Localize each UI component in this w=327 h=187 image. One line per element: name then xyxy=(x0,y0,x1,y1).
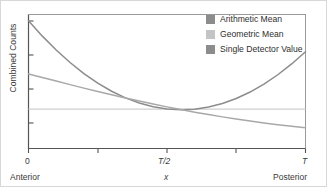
x-endpoint-label-posterior: Posterior xyxy=(273,172,307,182)
x-tick-label-full: T xyxy=(302,156,307,166)
legend-label-geometric-mean: Geometric Mean xyxy=(220,29,284,39)
legend-item-geometric-mean: Geometric Mean xyxy=(206,28,302,40)
x-axis-ticks xyxy=(29,149,306,154)
x-tick-label-0: 0 xyxy=(25,156,30,166)
legend-item-arithmetic-mean: Arithmetic Mean xyxy=(206,13,302,25)
x-tick-label-half: T/2 xyxy=(158,156,170,166)
chart-legend: Arithmetic Mean Geometric Mean Single De… xyxy=(206,13,302,55)
legend-label-arithmetic-mean: Arithmetic Mean xyxy=(220,14,282,24)
y-axis-ticks xyxy=(29,21,34,123)
legend-swatch-icon xyxy=(206,30,215,39)
y-axis-label: Combined Counts xyxy=(8,10,18,106)
figure-container: Combined Counts 0 T/2 T Anterior x Poste… xyxy=(0,0,327,187)
legend-item-single-detector-value: Single Detector Value xyxy=(206,43,302,55)
legend-swatch-icon xyxy=(206,45,215,54)
series-geometric-mean xyxy=(29,74,306,128)
legend-swatch-icon xyxy=(206,15,215,24)
x-axis-label: x xyxy=(164,172,168,182)
x-endpoint-label-anterior: Anterior xyxy=(10,172,40,182)
legend-label-single-detector-value: Single Detector Value xyxy=(220,44,302,54)
